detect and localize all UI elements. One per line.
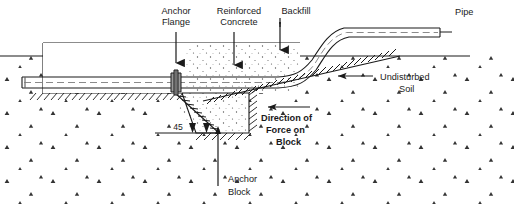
label-angle: 45 [173,122,183,132]
label-anchor-flange: Anchor Flange [161,6,190,27]
direction-of-force-label-line3: Block [276,137,302,147]
anchor-block-label-line1: Anchor [228,174,257,184]
direction-of-force-label-line2: Force on [266,125,305,135]
reinforced-concrete-label-line1: Reinforced [217,6,261,16]
direction-of-force-label-line1: Direction of [261,113,313,123]
diagram-canvas: Anchor Flange Reinforced Concrete Backfi… [0,0,514,208]
anchor-flange-label-line1: Anchor [161,6,190,16]
label-reinforced-concrete: Reinforced Concrete [217,6,261,27]
anchor-flange [171,70,181,95]
label-backfill: Backfill [281,6,310,16]
backfill-label: Backfill [281,6,310,16]
reinforced-concrete-label-line2: Concrete [220,17,257,27]
pipe-label: Pipe [455,7,473,17]
label-pipe: Pipe [455,7,473,17]
backfill-region [43,43,186,93]
pipe-anchor-block-diagram: Anchor Flange Reinforced Concrete Backfi… [0,0,514,208]
undisturbed-soil-label-line1: Undisturbed [380,72,430,82]
angle-label: 45 [173,122,183,132]
anchor-block-label-line2: Block [228,187,251,197]
undisturbed-soil-label-line2: Soil [399,84,414,94]
anchor-flange-label-line2: Flange [162,17,190,27]
